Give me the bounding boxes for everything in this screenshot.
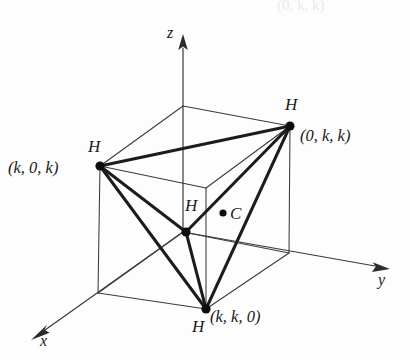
coordinate-label-h-left: (k, 0, k) bbox=[8, 160, 58, 177]
x-axis-label: x bbox=[40, 333, 47, 349]
cube-edge-bottom-left bbox=[98, 293, 206, 309]
y-axis-label: y bbox=[378, 272, 385, 288]
atom-label-h-left: H bbox=[88, 138, 100, 155]
coordinate-text-h-bottom: (k, k, 0) bbox=[210, 307, 260, 326]
atom-label-c-center: C bbox=[230, 205, 242, 222]
bond-left-to-bottom bbox=[100, 166, 206, 309]
tetrahedral-geometry-figure: (0, k, k) z y x H (0, k, k) H (k, 0, k) … bbox=[0, 0, 410, 360]
y-axis-line bbox=[183, 232, 375, 266]
atom-label-h-bottom: H bbox=[192, 318, 204, 335]
bond-topright-to-bottom bbox=[206, 126, 290, 309]
atom-label-h-center: H bbox=[185, 197, 197, 214]
coordinate-label-h-top-right: (0, k, k) bbox=[300, 128, 350, 145]
coordinate-label-h-bottom: (k, k, 0) bbox=[210, 309, 260, 326]
atom-dot-h-left bbox=[95, 161, 104, 170]
axes-group bbox=[31, 34, 390, 340]
x-axis-line bbox=[45, 232, 183, 330]
atom-dot-h-top-right bbox=[285, 121, 294, 130]
diagram-canvas bbox=[0, 0, 410, 360]
atom-dot-h-center bbox=[181, 227, 190, 236]
cube-edge-top-back-right bbox=[183, 106, 290, 126]
cube-edge-vertical-left bbox=[98, 166, 100, 293]
tetrahedron-bonds bbox=[100, 126, 290, 309]
z-axis-label: z bbox=[167, 25, 173, 41]
atom-dot-c-center bbox=[219, 209, 226, 216]
cropped-top-fragment: (0, k, k) bbox=[277, 0, 325, 13]
atom-label-h-top-right: H bbox=[285, 96, 297, 113]
coordinate-text-h-top-right: (0, k, k) bbox=[300, 126, 350, 145]
cube-edge-vertical-right bbox=[289, 126, 290, 253]
coordinate-text-h-left: (k, 0, k) bbox=[8, 158, 58, 177]
